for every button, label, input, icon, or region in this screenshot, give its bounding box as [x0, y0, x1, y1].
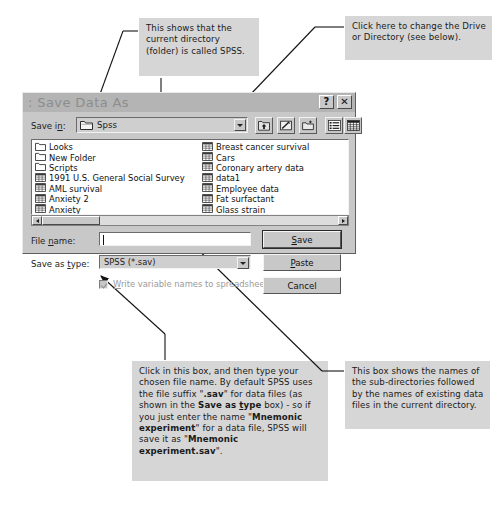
save-as-type-label: Save as type: — [31, 259, 89, 269]
file-list-item[interactable]: Glass strain — [202, 204, 347, 214]
file-list-item[interactable]: Coronary artery data — [202, 163, 347, 173]
scroll-right-button[interactable] — [338, 216, 348, 225]
file-list-item-label: Anxiety 2 — [49, 194, 89, 204]
spss-data-file-icon — [202, 204, 213, 215]
annotation-file-name-box-text: Click in this box, and then type your ch… — [139, 366, 312, 456]
create-new-folder-button[interactable] — [299, 117, 317, 134]
file-list-item[interactable]: Looks — [35, 142, 200, 152]
file-list-item-label: New Folder — [49, 153, 96, 163]
favorites-icon — [280, 120, 292, 131]
save-in-label: Save in: — [31, 121, 66, 131]
file-list-item-label: Glass strain — [216, 205, 265, 215]
up-one-level-button[interactable] — [255, 117, 273, 134]
spss-data-file-icon — [35, 173, 46, 184]
spss-data-file-icon — [202, 183, 213, 194]
chevron-down-icon — [237, 124, 243, 127]
folder-icon — [80, 116, 93, 134]
details-view-button[interactable] — [344, 117, 362, 134]
file-list-item[interactable]: Anxiety — [35, 204, 200, 214]
file-list-item[interactable]: Scripts — [35, 163, 200, 173]
file-list-item[interactable]: Cars — [202, 152, 347, 162]
paste-button-label: Paste — [290, 258, 313, 268]
file-list-item[interactable]: New Folder — [35, 152, 200, 162]
save-in-combobox[interactable]: Spss — [76, 117, 248, 133]
arrow-left-icon — [36, 219, 39, 223]
write-variable-names-checkbox[interactable] — [99, 280, 108, 289]
scrollbar-thumb[interactable] — [42, 216, 100, 225]
annotation-file-list-box: This box shows the names of the sub-dire… — [345, 361, 490, 429]
file-list-item-label: Employee data — [216, 184, 279, 194]
file-list-item[interactable]: 1991 U.S. General Social Survey — [35, 173, 200, 183]
file-list-column-1: LooksNew FolderScripts1991 U.S. General … — [35, 142, 200, 215]
spss-data-file-icon — [202, 142, 213, 153]
file-name-label: File name: — [31, 236, 75, 246]
file-list-item-label: data1 — [216, 173, 240, 183]
file-list-item[interactable]: Breast cancer survival — [202, 142, 347, 152]
annotation-current-directory-text: This shows that the current directory (f… — [146, 23, 245, 56]
cancel-button-label: Cancel — [287, 281, 316, 291]
file-list-item[interactable]: data1 — [202, 173, 347, 183]
chevron-down-icon — [240, 262, 246, 265]
file-list-item-label: Cars — [216, 153, 235, 163]
file-list-horizontal-scrollbar[interactable] — [31, 215, 349, 226]
file-list-item-label: 1991 U.S. General Social Survey — [49, 173, 185, 183]
scroll-left-button[interactable] — [32, 216, 42, 225]
spss-data-file-icon — [35, 183, 46, 194]
spss-data-file-icon — [202, 173, 213, 184]
scrollbar-track[interactable] — [100, 216, 338, 225]
save-as-type-value: SPSS (*.sav) — [104, 257, 156, 267]
save-button-label: Save — [291, 235, 312, 245]
details-view-icon — [347, 120, 360, 131]
file-list-item-label: AML survival — [49, 184, 102, 194]
dialog-title-bar[interactable]: : Save Data As ? ✕ — [23, 93, 355, 112]
file-list-item-label: Coronary artery data — [216, 163, 304, 173]
arrow-right-icon — [342, 219, 345, 223]
save-button[interactable]: Save — [263, 231, 341, 248]
cancel-button[interactable]: Cancel — [263, 277, 341, 294]
annotation-change-drive-text: Click here to change the Drive or Direct… — [352, 21, 486, 42]
file-list-item[interactable]: Anxiety 2 — [35, 194, 200, 204]
save-in-row: Save in: Spss — [31, 117, 349, 135]
folder-icon — [35, 152, 46, 163]
annotation-file-list-box-text: This box shows the names of the sub-dire… — [352, 366, 483, 410]
annotation-file-name-box: Click in this box, and then type your ch… — [132, 361, 328, 481]
help-button[interactable]: ? — [319, 95, 334, 109]
file-list-item-label: Scripts — [49, 163, 78, 173]
spss-data-file-icon — [35, 204, 46, 215]
list-view-button[interactable] — [325, 117, 343, 134]
file-list-item[interactable]: AML survival — [35, 184, 200, 194]
up-one-level-icon — [258, 120, 270, 131]
file-list[interactable]: LooksNew FolderScripts1991 U.S. General … — [31, 139, 349, 215]
file-list-item-label: Breast cancer survival — [216, 142, 309, 152]
annotation-change-drive: Click here to change the Drive or Direct… — [345, 16, 492, 60]
file-list-column-2: Breast cancer survivalCarsCoronary arter… — [202, 142, 347, 215]
dialog-title: : Save Data As — [23, 95, 129, 110]
file-name-input[interactable] — [99, 232, 251, 246]
file-list-item[interactable]: Fat surfactant — [202, 194, 347, 204]
close-button[interactable]: ✕ — [337, 95, 352, 109]
save-as-type-dropdown-button[interactable] — [237, 257, 249, 269]
folder-icon — [35, 162, 46, 173]
spss-data-file-icon — [35, 194, 46, 205]
text-caret — [103, 235, 104, 245]
spss-data-file-icon — [202, 194, 213, 205]
file-list-item-label: Anxiety — [49, 205, 81, 215]
write-variable-names-label: Write variable names to spreadsheet — [113, 279, 268, 289]
save-as-type-combobox[interactable]: SPSS (*.sav) — [99, 255, 251, 269]
paste-button[interactable]: Paste — [263, 254, 341, 271]
annotation-current-directory: This shows that the current directory (f… — [139, 18, 259, 76]
list-view-icon — [328, 120, 341, 131]
file-list-item[interactable]: Employee data — [202, 184, 347, 194]
favorites-button[interactable] — [277, 117, 295, 134]
save-in-dropdown-button[interactable] — [234, 119, 246, 131]
file-list-item-label: Looks — [49, 142, 73, 152]
save-data-as-dialog: : Save Data As ? ✕ Save in: Spss — [22, 92, 356, 254]
file-list-item-label: Fat surfactant — [216, 194, 274, 204]
create-new-folder-icon — [302, 120, 314, 131]
write-variable-names-row[interactable]: Write variable names to spreadsheet — [99, 279, 268, 289]
spss-data-file-icon — [202, 152, 213, 163]
spss-data-file-icon — [202, 162, 213, 173]
folder-icon — [35, 142, 46, 153]
save-in-value: Spss — [97, 120, 117, 130]
